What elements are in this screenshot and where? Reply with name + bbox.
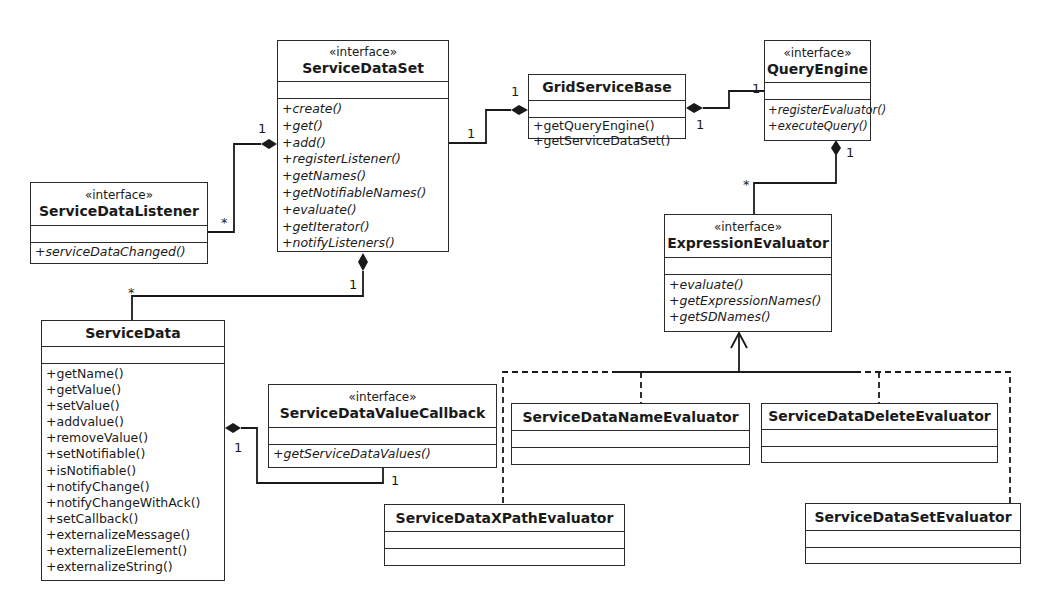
operation: +getExpressionNames() xyxy=(669,293,827,309)
multiplicity-qe-ee: 1 xyxy=(846,146,854,159)
operation: +getNames() xyxy=(282,168,444,185)
class-name: ServiceData xyxy=(42,325,224,342)
multiplicity-grid-sds: 1 xyxy=(511,85,519,98)
operation: +getNotifiableNames() xyxy=(282,185,444,202)
composition-sds-to-sd xyxy=(132,271,363,320)
class-name: ServiceDataDeleteEvaluator xyxy=(762,408,997,425)
class-header: ServiceDataNameEvaluator xyxy=(512,404,749,431)
attributes-compartment xyxy=(529,101,685,118)
operation: +executeQuery() xyxy=(768,118,867,134)
class-expression-evaluator[interactable]: «interface» ExpressionEvaluator +evaluat… xyxy=(664,214,832,332)
operation: +getSDNames() xyxy=(669,309,827,325)
diamond-grid-qe xyxy=(686,103,703,113)
operation: +externalizeElement() xyxy=(46,543,220,559)
operation: +setValue() xyxy=(46,398,220,414)
class-header: «interface» ExpressionEvaluator xyxy=(665,215,831,258)
class-header: «interface» ServiceDataListener xyxy=(31,183,207,226)
operation: +notifyChangeWithAck() xyxy=(46,495,220,511)
class-name: ExpressionEvaluator xyxy=(665,235,831,252)
operation: +getServiceDataSet() xyxy=(533,133,681,148)
diamond-grid-sds xyxy=(511,105,528,115)
class-name: QueryEngine xyxy=(765,61,870,78)
class-name: ServiceDataNameEvaluator xyxy=(512,409,749,426)
attributes-compartment xyxy=(806,531,1020,548)
attributes-compartment xyxy=(278,82,448,99)
operations-compartment: +getServiceDataValues() xyxy=(269,445,496,465)
composition-sds-to-grid xyxy=(449,110,511,143)
class-service-data-delete-evaluator[interactable]: ServiceDataDeleteEvaluator xyxy=(761,403,998,463)
operation: +getName() xyxy=(46,366,220,382)
class-header: «interface» ServiceDataValueCallback xyxy=(269,385,496,428)
class-name: ServiceDataXPathEvaluator xyxy=(385,510,624,527)
class-name: ServiceDataValueCallback xyxy=(269,405,496,422)
class-header: «interface» QueryEngine xyxy=(765,41,870,83)
class-service-data-value-callback[interactable]: «interface» ServiceDataValueCallback +ge… xyxy=(268,384,497,468)
operation: +externalizeString() xyxy=(46,559,220,575)
attributes-compartment xyxy=(31,226,207,243)
operation: +notifyChange() xyxy=(46,479,220,495)
class-header: ServiceData xyxy=(42,321,224,347)
diamond-sd-callback xyxy=(225,423,241,433)
multiplicity-sd-callback: 1 xyxy=(234,441,242,454)
class-header: «interface» ServiceDataSet xyxy=(278,41,448,82)
class-grid-service-base[interactable]: GridServiceBase +getQueryEngine() +getSe… xyxy=(528,74,686,139)
operations-compartment: +getName() +getValue() +setValue() +addv… xyxy=(42,364,224,577)
class-service-data-xpath-evaluator[interactable]: ServiceDataXPathEvaluator xyxy=(384,504,625,566)
operation: +getServiceDataValues() xyxy=(273,446,492,463)
stereotype: «interface» xyxy=(31,188,207,203)
operation: +registerListener() xyxy=(282,151,444,168)
multiplicity-sd: * xyxy=(128,286,135,299)
operation: +getIterator() xyxy=(282,219,444,236)
operation: +getQueryEngine() xyxy=(533,118,681,133)
operation: +setNotifiable() xyxy=(46,446,220,462)
class-header: ServiceDataSetEvaluator xyxy=(806,504,1020,531)
class-service-data-name-evaluator[interactable]: ServiceDataNameEvaluator xyxy=(511,403,750,465)
composition-listener-to-sds xyxy=(207,144,261,232)
class-name: GridServiceBase xyxy=(529,79,685,96)
composition-qe-to-ee xyxy=(754,155,836,214)
class-name: ServiceDataSetEvaluator xyxy=(806,509,1020,526)
operations-compartment: +evaluate() +getExpressionNames() +getSD… xyxy=(665,275,831,327)
class-header: GridServiceBase xyxy=(529,75,685,101)
attributes-compartment xyxy=(762,430,997,447)
multiplicity-callback: 1 xyxy=(391,474,399,487)
class-service-data[interactable]: ServiceData +getName() +getValue() +setV… xyxy=(41,320,225,581)
attributes-compartment xyxy=(269,428,496,445)
multiplicity-sds-listener: 1 xyxy=(258,122,266,135)
attributes-compartment xyxy=(385,532,624,549)
operation: +evaluate() xyxy=(282,202,444,219)
attributes-compartment xyxy=(665,258,831,275)
operation: +get() xyxy=(282,118,444,135)
operation: +serviceDataChanged() xyxy=(35,244,203,261)
operation: +addvalue() xyxy=(46,414,220,430)
class-service-data-set[interactable]: «interface» ServiceDataSet +create() +ge… xyxy=(277,40,449,252)
operation: +create() xyxy=(282,101,444,118)
class-name: ServiceDataSet xyxy=(278,60,448,77)
diamond-sds-sd xyxy=(358,253,368,271)
multiplicity-sds-grid: 1 xyxy=(467,127,475,140)
stereotype: «interface» xyxy=(278,45,448,60)
class-header: ServiceDataDeleteEvaluator xyxy=(762,404,997,430)
diamond-sds-listener xyxy=(261,139,277,149)
class-service-data-set-evaluator[interactable]: ServiceDataSetEvaluator xyxy=(805,503,1021,564)
multiplicity-listener: * xyxy=(221,216,228,229)
class-name: ServiceDataListener xyxy=(31,203,207,220)
operations-compartment: +getQueryEngine() +getServiceDataSet() xyxy=(529,118,685,150)
operation: +setCallback() xyxy=(46,511,220,527)
class-header: ServiceDataXPathEvaluator xyxy=(385,505,624,532)
operations-compartment: +registerEvaluator() +executeQuery() xyxy=(765,100,870,136)
stereotype: «interface» xyxy=(269,390,496,405)
operation: +isNotifiable() xyxy=(46,463,220,479)
operations-compartment: +create() +get() +add() +registerListene… xyxy=(278,99,448,254)
operations-compartment: +serviceDataChanged() xyxy=(31,243,207,263)
operation: +add() xyxy=(282,135,444,152)
multiplicity-sds-sd: 1 xyxy=(349,278,357,291)
multiplicity-grid-qe: 1 xyxy=(696,118,704,131)
class-query-engine[interactable]: «interface» QueryEngine +registerEvaluat… xyxy=(764,40,871,141)
class-service-data-listener[interactable]: «interface» ServiceDataListener +service… xyxy=(30,182,208,264)
attributes-compartment xyxy=(512,431,749,448)
stereotype: «interface» xyxy=(765,46,870,61)
stereotype: «interface» xyxy=(665,220,831,235)
operation: +registerEvaluator() xyxy=(768,102,867,118)
attributes-compartment xyxy=(42,347,224,364)
